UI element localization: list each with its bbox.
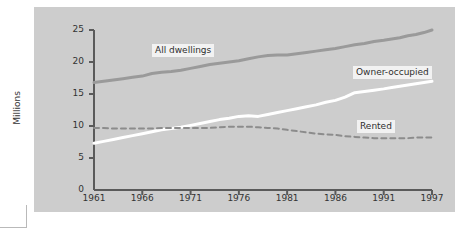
axis-lines bbox=[94, 30, 432, 190]
chart-canvas bbox=[0, 0, 471, 235]
tick-marks bbox=[89, 30, 432, 195]
series-label-rented: Rented bbox=[357, 120, 395, 133]
line-chart: Millions 0510152025 19611966197119761981… bbox=[0, 0, 471, 235]
series-label-all-dwellings: All dwellings bbox=[152, 44, 214, 57]
series-label-owner-occupied: Owner-occupied bbox=[353, 66, 432, 79]
series-line-owner-occupied bbox=[94, 81, 432, 143]
figure-root: Millions 0510152025 19611966197119761981… bbox=[0, 0, 471, 235]
